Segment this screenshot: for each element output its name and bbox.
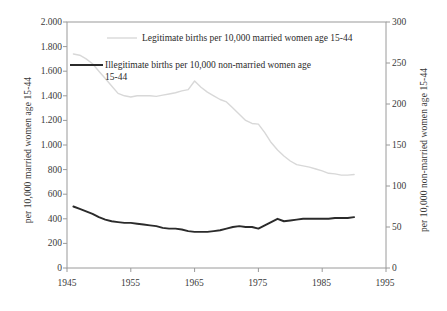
chart-figure: per 10,000 married women age 15-44 per 1… xyxy=(0,0,447,311)
legend-label-legitimate: Legitimate births per 10,000 married wom… xyxy=(142,33,353,43)
legend-label-illegitimate-line2: 15-44 xyxy=(105,72,127,82)
legend-label-illegitimate-line1: Illegitimate births per 10,000 non-marri… xyxy=(105,60,311,70)
line-illegitimate-births xyxy=(73,207,354,232)
plot-area xyxy=(0,0,447,311)
plot-frame xyxy=(67,22,386,268)
